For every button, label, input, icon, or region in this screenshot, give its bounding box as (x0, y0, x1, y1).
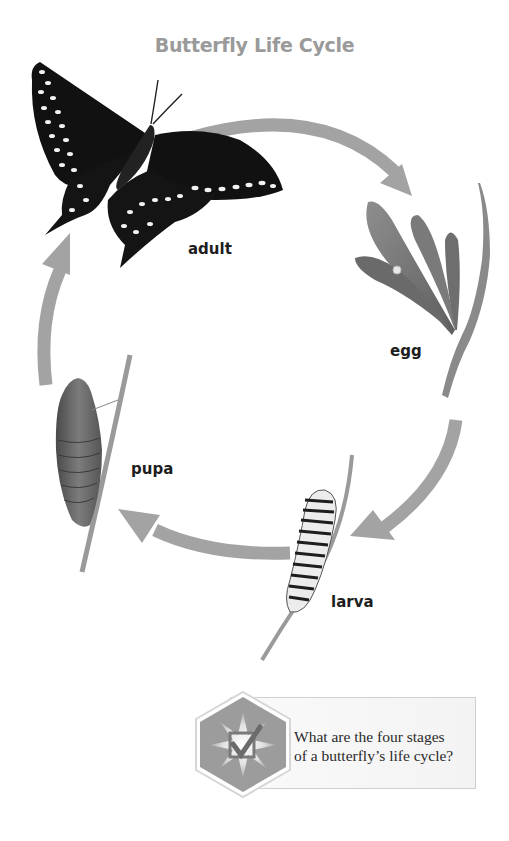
arrow-egg-to-larva (350, 420, 456, 540)
stage-label-larva: larva (331, 593, 374, 611)
arrow-larva-to-pupa (118, 509, 290, 553)
question-line-1: What are the four stages (294, 727, 474, 746)
pupa-illustration (56, 355, 130, 572)
question-text: What are the four stages of a butterfly’… (294, 727, 474, 765)
stage-label-pupa: pupa (131, 460, 173, 478)
question-line-2: of a butterfly’s life cycle? (294, 746, 474, 765)
egg-icon (393, 266, 401, 274)
stage-label-adult: adult (188, 240, 232, 258)
stage-label-egg: egg (390, 342, 422, 360)
egg-on-leaf-illustration (355, 183, 490, 398)
arrow-pupa-to-adult (42, 233, 70, 385)
